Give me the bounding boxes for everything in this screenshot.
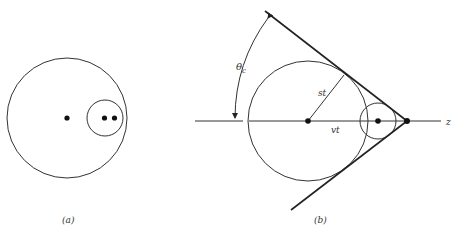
emission-point-2 (102, 115, 107, 120)
emission-point-2 (375, 118, 381, 124)
cone-upper-line (265, 11, 407, 121)
emission-point-1 (64, 115, 69, 120)
panel-b-label: (b) (314, 215, 327, 225)
figure-canvas: (a) θc st vt z (b) (0, 0, 465, 236)
panel-b: θc st vt z (b) (195, 11, 451, 225)
cone-lower-line (291, 121, 407, 210)
radius-line (308, 75, 344, 121)
particle-position (404, 118, 410, 124)
panel-a: (a) (7, 58, 127, 225)
particle-position (112, 115, 117, 120)
distance-label: vt (331, 125, 340, 135)
panel-a-label: (a) (62, 215, 75, 225)
radius-label: st (318, 88, 327, 98)
axis-label: z (445, 117, 451, 127)
emission-point-1 (305, 118, 311, 124)
